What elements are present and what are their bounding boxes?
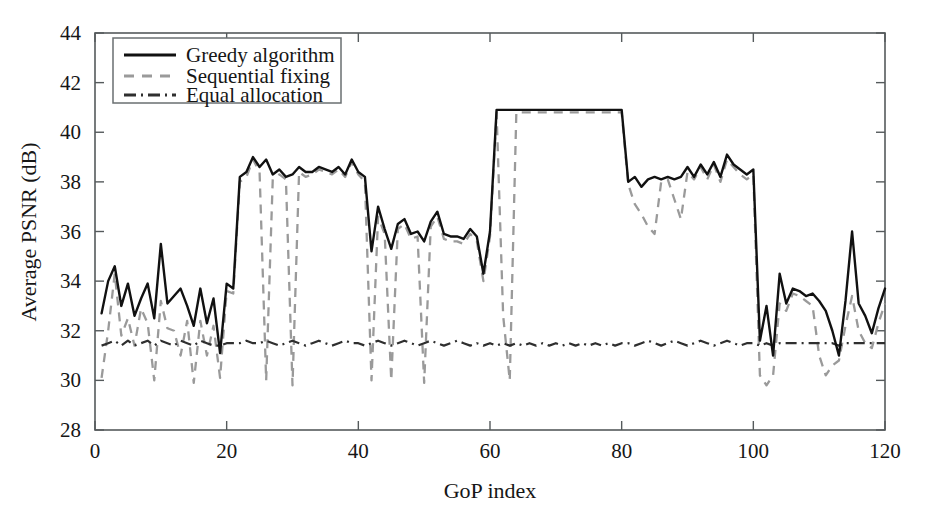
y-tick-label: 38 [60,170,81,194]
y-axis-title: Average PSNR (dB) [16,142,41,321]
y-tick-label: 28 [60,418,81,442]
y-tick-label: 36 [60,220,81,244]
y-tick-label: 44 [60,21,82,45]
x-tick-label: 120 [869,439,901,463]
y-tick-label: 40 [60,120,81,144]
y-tick-label: 32 [60,319,81,343]
x-axis-title: GoP index [444,478,537,503]
psnr-line-chart: 283032343638404244 020406080100120 Avera… [0,0,938,513]
y-tick-label: 42 [60,71,81,95]
x-tick-label: 20 [216,439,237,463]
x-tick-label: 60 [480,439,501,463]
chart-figure: 283032343638404244 020406080100120 Avera… [0,0,938,513]
x-tick-label: 100 [738,439,770,463]
y-tick-label: 30 [60,368,81,392]
x-tick-label: 0 [90,439,101,463]
x-tick-label: 40 [348,439,369,463]
legend: Greedy algorithm Sequential fixing Equal… [113,38,341,107]
y-tick-label: 34 [60,269,82,293]
x-tick-label: 80 [611,439,632,463]
legend-label-equal: Equal allocation [186,83,324,107]
